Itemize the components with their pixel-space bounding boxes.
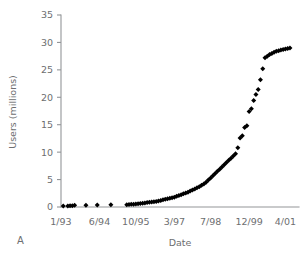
y-axis-ticks [57, 15, 61, 207]
chart-figure: 05101520253035 1/936/9410/953/977/9812/9… [0, 0, 304, 258]
y-tick-label: 5 [47, 174, 53, 185]
data-point-series [61, 45, 293, 208]
scatter-chart-svg: 05101520253035 1/936/9410/953/977/9812/9… [0, 0, 304, 258]
y-tick-label: 30 [41, 37, 53, 48]
data-point-marker [256, 87, 261, 92]
y-axis-title: Users (millions) [7, 75, 18, 149]
y-axis-group: 05101520253035 [41, 9, 61, 212]
data-point-marker [253, 92, 258, 97]
data-point-marker [258, 77, 263, 82]
y-tick-label: 35 [41, 9, 53, 20]
x-tick-label: 3/97 [164, 216, 185, 227]
y-tick-label: 0 [47, 201, 53, 212]
x-tick-label: 4/01 [275, 216, 296, 227]
y-tick-label: 20 [41, 92, 53, 103]
x-tick-label: 12/99 [235, 216, 262, 227]
data-point-marker [251, 98, 256, 103]
y-tick-label: 25 [41, 64, 53, 75]
data-point-marker [260, 66, 265, 71]
x-axis-group: 1/936/9410/953/977/9812/994/01 [50, 207, 299, 227]
x-tick-label: 1/93 [50, 216, 71, 227]
y-tick-label: 10 [41, 147, 53, 158]
x-tick-label: 10/95 [122, 216, 149, 227]
data-point-marker [235, 145, 240, 150]
x-tick-label: 7/98 [200, 216, 221, 227]
x-axis-title: Date [169, 237, 192, 248]
y-axis-tick-labels: 05101520253035 [41, 9, 53, 212]
panel-label: A [17, 235, 24, 246]
x-tick-label: 6/94 [89, 216, 110, 227]
y-tick-label: 15 [41, 119, 53, 130]
x-axis-tick-labels: 1/936/9410/953/977/9812/994/01 [50, 216, 296, 227]
